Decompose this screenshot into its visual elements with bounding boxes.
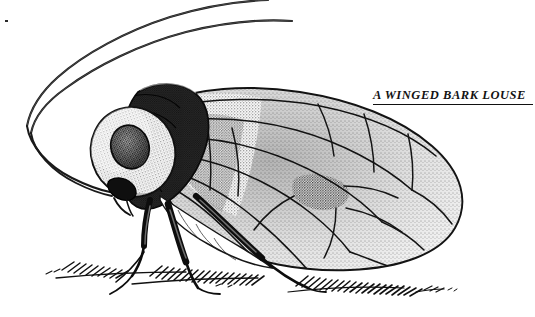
ink-speck <box>5 20 8 22</box>
caption: A WINGED BARK LOUSE <box>373 88 533 105</box>
illustration-page: A WINGED BARK LOUSE <box>0 0 535 317</box>
bark-louse-illustration <box>0 0 535 317</box>
caption-text: A WINGED BARK LOUSE <box>373 88 533 102</box>
